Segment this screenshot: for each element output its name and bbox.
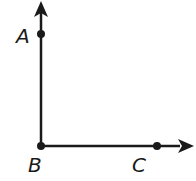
- arrowhead-right-icon: [178, 139, 194, 153]
- point-c: [153, 142, 161, 150]
- point-a: [37, 30, 45, 38]
- point-b: [37, 142, 45, 150]
- label-c: C: [132, 155, 146, 175]
- label-a: A: [16, 26, 30, 46]
- label-b: B: [28, 155, 42, 175]
